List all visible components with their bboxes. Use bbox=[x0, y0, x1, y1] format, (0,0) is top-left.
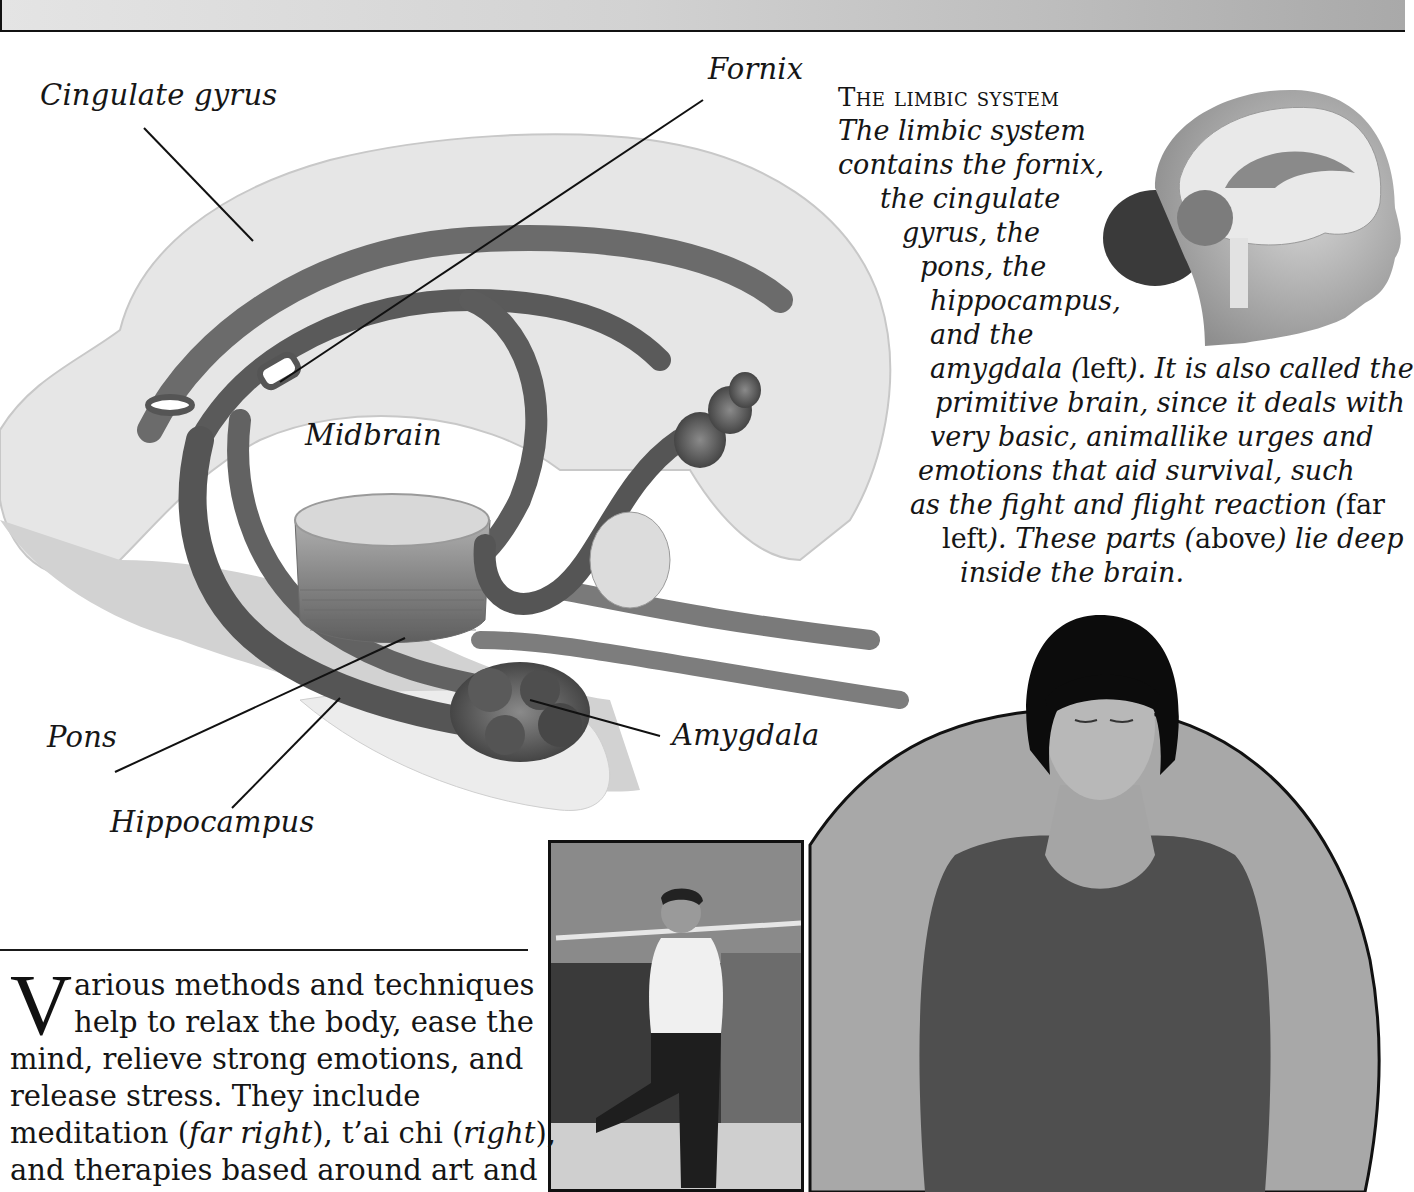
caption-line: gyrus, the bbox=[902, 216, 1040, 251]
body-line: arious methods and techniques bbox=[74, 967, 535, 1004]
caption-line: and the bbox=[930, 318, 1034, 353]
caption-line: amygdala (left). It is also called the bbox=[930, 352, 1414, 387]
caption-line: the cingulate bbox=[880, 182, 1060, 217]
body-line: release stress. They include bbox=[10, 1078, 420, 1115]
caption-line: contains the fornix, bbox=[838, 148, 1104, 183]
amygdala-shape bbox=[450, 662, 590, 762]
caption-line: left). These parts (above) lie deep bbox=[942, 522, 1403, 557]
page-header-band bbox=[0, 0, 1405, 32]
body-line: meditation (far right), t’ai chi (right)… bbox=[10, 1115, 556, 1152]
drop-cap: V bbox=[10, 965, 72, 1045]
body-line: mind, relieve strong emotions, and bbox=[10, 1041, 523, 1078]
caption-line: very basic, animallike urges and bbox=[930, 420, 1374, 455]
caption-line: hippocampus, bbox=[930, 284, 1121, 319]
caption-heading: The limbic system bbox=[838, 82, 1059, 112]
label-fornix: Fornix bbox=[708, 52, 803, 86]
label-cingulate-gyrus: Cingulate gyrus bbox=[40, 78, 277, 112]
section-divider bbox=[0, 949, 528, 951]
label-hippocampus: Hippocampus bbox=[110, 805, 315, 839]
body-line: and therapies based around art and bbox=[10, 1152, 537, 1189]
label-midbrain: Midbrain bbox=[305, 418, 442, 452]
label-amygdala: Amygdala bbox=[672, 718, 819, 752]
taichi-photo bbox=[548, 840, 804, 1192]
caption-line: inside the brain. bbox=[960, 556, 1184, 591]
caption-line: The limbic system bbox=[838, 114, 1086, 149]
head-brain-illustration bbox=[1095, 78, 1405, 348]
caption-line: primitive brain, since it deals with bbox=[935, 386, 1405, 421]
caption-line: emotions that aid survival, such bbox=[918, 454, 1355, 489]
label-pons: Pons bbox=[47, 720, 117, 754]
body-line: help to relax the body, ease the bbox=[74, 1004, 534, 1041]
pons-shape bbox=[295, 494, 490, 643]
meditation-photo bbox=[805, 600, 1395, 1192]
caption-line: as the fight and flight reaction (far bbox=[910, 488, 1385, 523]
caption-line: pons, the bbox=[920, 250, 1046, 285]
